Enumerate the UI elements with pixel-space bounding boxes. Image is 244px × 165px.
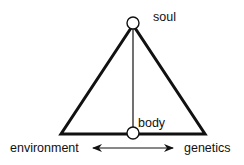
body-label: body [138, 116, 166, 130]
soul-body-triangle-diagram: soul body environment genetics [0, 0, 244, 165]
environment-label: environment [10, 141, 79, 155]
soul-label: soul [153, 10, 176, 24]
genetics-label: genetics [184, 141, 231, 155]
soul-node [127, 17, 139, 29]
